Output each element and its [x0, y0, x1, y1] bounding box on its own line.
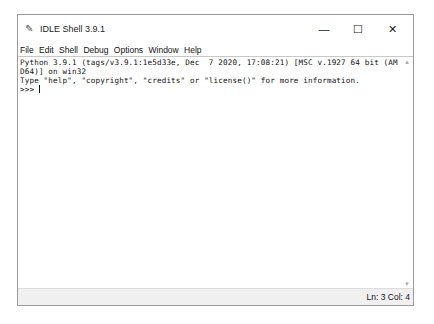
- banner-line-3: Type "help", "copyright", "credits" or "…: [20, 76, 399, 85]
- close-button[interactable]: ✕: [377, 19, 407, 39]
- menu-help[interactable]: Help: [184, 45, 201, 55]
- prompt: >>>: [20, 85, 39, 94]
- menu-window[interactable]: Window: [149, 45, 179, 55]
- status-bar: Ln: 3 Col: 4: [18, 288, 413, 305]
- menu-shell[interactable]: Shell: [59, 45, 78, 55]
- scroll-up-arrow-icon[interactable]: ▲: [403, 58, 411, 66]
- idle-shell-window: ✎ IDLE Shell 3.9.1 — ☐ ✕ File Edit Shell…: [17, 14, 414, 306]
- menu-debug[interactable]: Debug: [83, 45, 108, 55]
- scroll-down-arrow-icon[interactable]: ▼: [403, 280, 411, 288]
- prompt-line[interactable]: >>>: [20, 85, 399, 94]
- menu-bar: File Edit Shell Debug Options Window Hel…: [18, 44, 413, 56]
- title-bar[interactable]: ✎ IDLE Shell 3.9.1 — ☐ ✕: [18, 15, 413, 45]
- shell-output: Python 3.9.1 (tags/v3.9.1:1e5d33e, Dec 7…: [20, 58, 399, 94]
- maximize-button[interactable]: ☐: [343, 19, 373, 39]
- shell-text-area[interactable]: Python 3.9.1 (tags/v3.9.1:1e5d33e, Dec 7…: [18, 56, 413, 289]
- window-title: IDLE Shell 3.9.1: [40, 23, 105, 35]
- vertical-scrollbar[interactable]: ▲ ▼: [401, 57, 413, 289]
- idle-feather-icon: ✎: [25, 23, 37, 35]
- minimize-button[interactable]: —: [309, 19, 339, 39]
- banner-line-2: D64)] on win32: [20, 67, 399, 76]
- menu-options[interactable]: Options: [114, 45, 143, 55]
- text-cursor: [39, 85, 40, 93]
- menu-edit[interactable]: Edit: [39, 45, 54, 55]
- cursor-position: Ln: 3 Col: 4: [367, 289, 410, 305]
- menu-file[interactable]: File: [20, 45, 34, 55]
- banner-line-1: Python 3.9.1 (tags/v3.9.1:1e5d33e, Dec 7…: [20, 58, 399, 67]
